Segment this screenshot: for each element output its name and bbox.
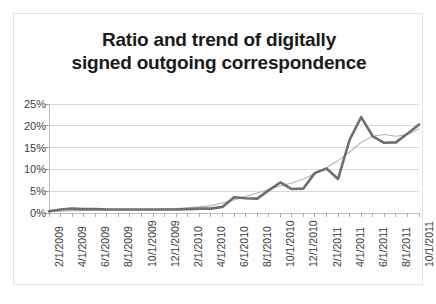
x-axis-tick-label: 4/1/2009 xyxy=(76,226,88,267)
x-axis-tick-label: 8/1/2011 xyxy=(400,227,412,267)
x-axis-tick-label: 8/1/2009 xyxy=(122,226,134,267)
x-axis-tick-label: 4/1/2011 xyxy=(354,227,366,267)
x-axis-tick-label: 4/1/2010 xyxy=(215,226,227,267)
x-axis-tick-label: 2/1/2010 xyxy=(192,226,204,267)
x-axis-labels: 2/1/20094/1/20096/1/20098/1/200910/1/200… xyxy=(14,14,424,286)
x-axis-tick-label: 12/1/2009 xyxy=(169,220,181,267)
x-axis-tick-label: 10/1/2010 xyxy=(284,220,296,267)
x-axis-tick-label: 6/1/2010 xyxy=(238,226,250,267)
x-axis-tick-label: 6/1/2009 xyxy=(99,226,111,267)
x-axis-tick-label: 10/1/2011 xyxy=(423,221,435,267)
x-axis-tick-label: 8/1/2010 xyxy=(261,226,273,267)
x-axis-tick-label: 2/1/2009 xyxy=(53,226,65,267)
x-axis-tick-label: 2/1/2011 xyxy=(331,227,343,267)
x-axis-tick-label: 6/1/2011 xyxy=(377,227,389,267)
x-axis-tick-label: 10/1/2009 xyxy=(146,220,158,267)
plot-area: 0%5%10%15%20%25% 2/1/20094/1/20096/1/200… xyxy=(14,14,424,286)
chart-container: Ratio and trend of digitally signed outg… xyxy=(13,13,423,285)
x-axis-tick-label: 12/1/2010 xyxy=(307,220,319,267)
